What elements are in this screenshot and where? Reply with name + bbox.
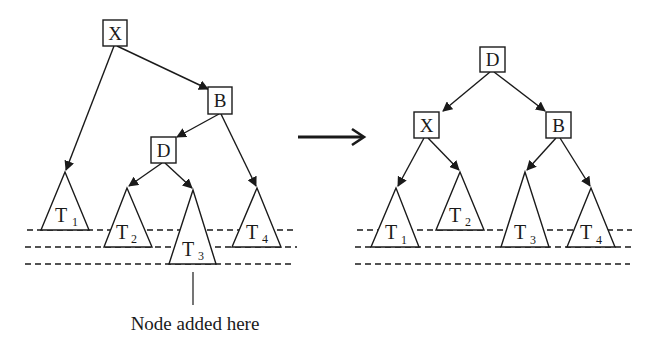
- svg-text:2: 2: [131, 232, 137, 246]
- svg-text:3: 3: [530, 233, 536, 247]
- svg-text:T: T: [514, 221, 526, 243]
- svg-text:B: B: [552, 115, 565, 136]
- edges-before: [66, 46, 256, 188]
- svg-text:T: T: [449, 204, 461, 226]
- svg-text:3: 3: [198, 249, 204, 263]
- node-b: B: [546, 112, 571, 138]
- svg-text:B: B: [214, 90, 227, 111]
- node-d: D: [480, 47, 505, 72]
- svg-text:X: X: [420, 115, 434, 136]
- subtree-t1: T 1: [41, 172, 89, 230]
- svg-text:T: T: [246, 221, 258, 243]
- svg-text:T: T: [116, 221, 128, 243]
- svg-text:1: 1: [401, 233, 407, 247]
- tree-after: D X B T 1 T 2 T 3 T 4: [371, 47, 615, 247]
- svg-text:2: 2: [465, 215, 471, 229]
- svg-text:X: X: [108, 23, 122, 44]
- tree-before: X B D T 1 T 2 T 3 T 4: [41, 20, 281, 334]
- subtree-t3: T 3: [169, 190, 216, 264]
- annotation-label: Node added here: [131, 313, 260, 334]
- subtree-t4: T 4: [567, 188, 615, 247]
- subtree-t2: T 2: [436, 172, 484, 230]
- svg-text:D: D: [486, 49, 500, 70]
- svg-text:T: T: [182, 238, 194, 260]
- node-x: X: [103, 20, 127, 46]
- svg-text:D: D: [157, 140, 171, 161]
- svg-text:T: T: [55, 204, 67, 226]
- node-x: X: [414, 112, 439, 138]
- svg-text:T: T: [385, 221, 397, 243]
- svg-text:1: 1: [72, 215, 78, 229]
- svg-text:4: 4: [596, 233, 602, 247]
- subtree-t1: T 1: [371, 188, 419, 247]
- subtree-t3: T 3: [501, 172, 549, 247]
- subtree-t4: T 4: [232, 188, 281, 247]
- avl-rotation-diagram: X B D T 1 T 2 T 3 T 4: [0, 0, 658, 347]
- subtree-t2: T 2: [104, 188, 152, 247]
- node-b: B: [208, 87, 232, 114]
- rotation-arrow-icon: [298, 129, 364, 145]
- svg-text:T: T: [580, 221, 592, 243]
- svg-text:4: 4: [262, 232, 268, 246]
- node-d: D: [151, 137, 176, 163]
